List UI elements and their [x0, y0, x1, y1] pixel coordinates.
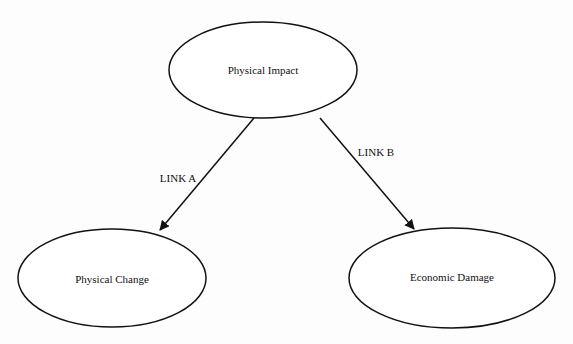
node-physical-change-label: Physical Change	[75, 273, 149, 285]
diagram-canvas: Physical Impact Physical Change Economic…	[0, 0, 573, 344]
edge-link-b-label: LINK B	[358, 146, 394, 158]
node-economic-damage-label: Economic Damage	[410, 271, 494, 283]
node-physical-impact-label: Physical Impact	[228, 64, 299, 76]
edge-link-a-label: LINK A	[160, 172, 196, 184]
diagram-svg	[0, 0, 573, 344]
edge-link-b-arrow[interactable]	[320, 118, 414, 229]
